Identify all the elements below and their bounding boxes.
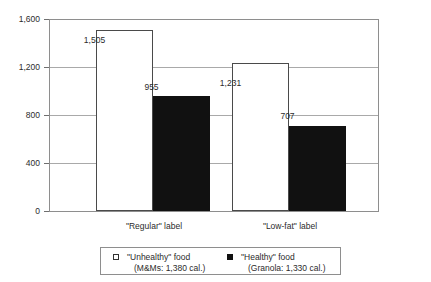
legend: "Unhealthy" food (M&Ms: 1,380 cal.) "Hea… (100, 247, 341, 275)
legend-swatch-unhealthy-icon (113, 254, 119, 260)
legend-text-unhealthy: "Unhealthy" food (M&Ms: 1,380 cal.) (127, 252, 205, 273)
bar-value-regular-healthy: 955 (123, 82, 180, 92)
legend-swatch-healthy-icon (227, 254, 233, 260)
bar-regular-unhealthy (96, 30, 153, 211)
legend-sublabel-unhealthy: (M&Ms: 1,380 cal.) (127, 263, 205, 274)
y-tick-label-0: 0 (0, 207, 40, 216)
bar-value-lowfat-unhealthy: 1,231 (202, 78, 259, 88)
bar-regular-healthy (153, 96, 210, 211)
bar-value-regular-unhealthy: 1,505 (66, 35, 123, 45)
y-tick-label-1600: 1,600 (0, 15, 40, 24)
legend-label-unhealthy: "Unhealthy" food (127, 252, 205, 263)
plot-area (49, 19, 379, 212)
bar-lowfat-healthy (289, 126, 346, 211)
y-tick-label-400: 400 (0, 159, 40, 168)
y-tick-label-1200: 1,200 (0, 63, 40, 72)
x-category-label-lowfat: "Low-fat" label (230, 221, 350, 231)
legend-text-healthy: "Healthy" food (Granola: 1,330 cal.) (241, 252, 325, 273)
calorie-estimate-bar-chart: Calorie estimate 1,600 1,200 800 400 0 1… (0, 0, 431, 282)
x-category-label-regular: "Regular" label (94, 221, 214, 231)
bar-value-lowfat-healthy: 707 (259, 111, 316, 121)
legend-sublabel-healthy: (Granola: 1,330 cal.) (241, 263, 325, 274)
y-tick-label-800: 800 (0, 111, 40, 120)
legend-label-healthy: "Healthy" food (241, 252, 325, 263)
